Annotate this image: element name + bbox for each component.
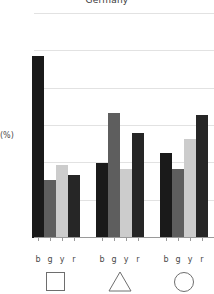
bar (44, 180, 56, 238)
gridline (34, 50, 214, 51)
y-axis-unit-label: (%) (0, 131, 14, 140)
x-tick-label: r (67, 255, 81, 264)
bar (160, 153, 172, 238)
gridline (34, 13, 214, 14)
gridline (34, 125, 214, 126)
bar (172, 169, 184, 238)
gridline (34, 88, 214, 89)
bar (120, 169, 132, 238)
group-symbol-square (36, 270, 76, 294)
x-tick-mark (178, 238, 179, 241)
x-tick-mark (62, 238, 63, 241)
x-tick-mark (74, 238, 75, 241)
x-tick-mark (38, 238, 39, 241)
bar (96, 163, 108, 238)
x-tick-mark (202, 238, 203, 241)
bar (68, 175, 80, 238)
x-tick-mark (126, 238, 127, 241)
group-symbol-triangle (100, 270, 140, 294)
plot-area: 0102030405060 bgyrbgyrbgyr (34, 14, 214, 238)
bar (132, 133, 144, 238)
x-tick-mark (138, 238, 139, 241)
chart-title: Germany (0, 0, 214, 5)
group-symbol-circle (164, 270, 204, 294)
square-icon (46, 272, 65, 291)
x-tick-mark (190, 238, 191, 241)
triangle-icon (108, 271, 132, 292)
x-tick-label: r (131, 255, 145, 264)
x-tick-mark (102, 238, 103, 241)
x-axis-line (34, 237, 214, 238)
circle-icon (174, 272, 194, 292)
bar (196, 115, 208, 238)
x-tick-mark (166, 238, 167, 241)
x-tick-label: r (195, 255, 209, 264)
bar (184, 139, 196, 238)
x-tick-mark (114, 238, 115, 241)
bar (108, 113, 120, 238)
bar (32, 56, 44, 238)
x-tick-mark (50, 238, 51, 241)
bar (56, 165, 68, 238)
